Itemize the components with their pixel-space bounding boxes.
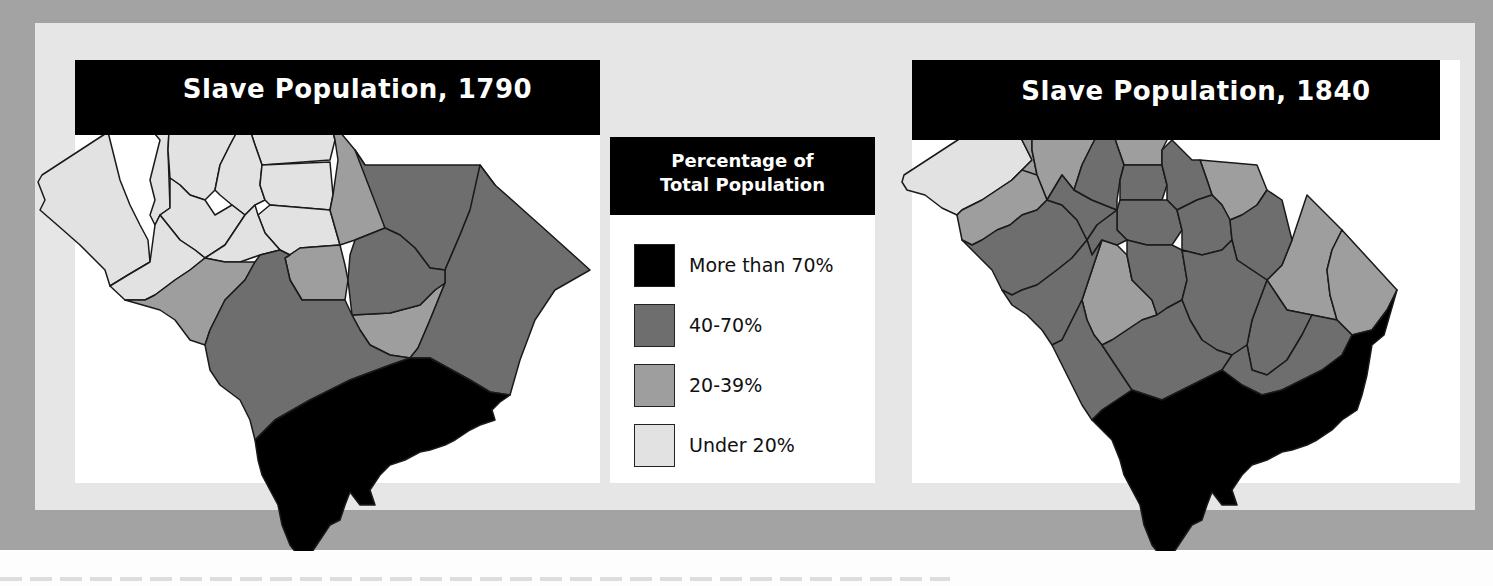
map-title-1840: Slave Population, 1840 (912, 60, 1440, 140)
bottom-rule (0, 577, 950, 581)
county-1840-fairfield (1117, 200, 1182, 245)
county-1840-chester (1120, 165, 1167, 200)
